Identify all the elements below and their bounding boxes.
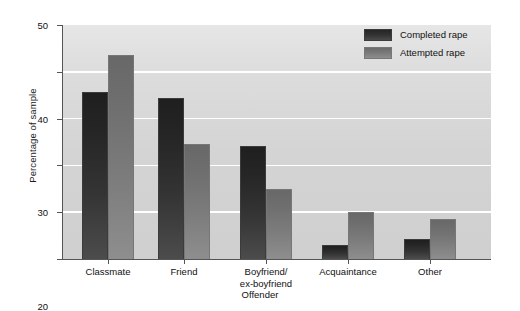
- bar-attempted: [430, 219, 456, 259]
- y-axis-tick: 50: [57, 25, 63, 26]
- x-axis-tick-label-line: Friend: [171, 266, 198, 278]
- x-axis-tick: [266, 259, 267, 264]
- x-axis-tick-label: Friend: [171, 266, 198, 278]
- x-axis-line: [62, 259, 491, 260]
- legend-label: Attempted rape: [400, 47, 465, 58]
- y-axis-tick: 20: [57, 165, 63, 166]
- y-axis-tick-label: 20: [37, 300, 48, 311]
- x-axis-tick-label-line: Boyfriend/: [240, 266, 292, 278]
- bar-completed: [240, 146, 266, 259]
- legend-swatch-completed: [364, 29, 392, 41]
- legend-swatch-attempted: [364, 47, 392, 59]
- bar-attempted: [348, 212, 374, 259]
- x-axis-tick-label: Classmate: [86, 266, 131, 278]
- y-axis-tick-label: 30: [37, 207, 48, 218]
- x-axis-tick-label-line: Other: [418, 266, 442, 278]
- x-axis-tick-label: Boyfriend/ex-boyfriend: [240, 266, 292, 289]
- y-axis-tick: 40: [57, 72, 63, 73]
- bar-attempted: [184, 144, 210, 259]
- bar-attempted: [108, 55, 134, 259]
- bar-completed: [404, 239, 430, 259]
- x-axis-tick: [108, 259, 109, 264]
- x-axis-tick-label: Other: [418, 266, 442, 278]
- x-axis-tick: [430, 259, 431, 264]
- x-axis-tick: [348, 259, 349, 264]
- chart-legend: Completed rapeAttempted rape: [364, 27, 468, 63]
- y-axis-tick: 10: [57, 212, 63, 213]
- y-axis-tick: 30: [57, 119, 63, 120]
- legend-label: Completed rape: [400, 29, 468, 40]
- x-axis-tick-label-line: Classmate: [86, 266, 131, 278]
- bar-chart: Percentage of sample 01020304050 Classma…: [0, 0, 520, 311]
- x-axis-tick-label-line: Acquaintance: [319, 266, 377, 278]
- x-axis-title: Offender: [0, 289, 520, 300]
- x-axis-tick-label: Acquaintance: [319, 266, 377, 278]
- y-axis-tick-label: 50: [37, 20, 48, 31]
- bar-completed: [322, 245, 348, 259]
- x-axis-tick: [184, 259, 185, 264]
- legend-item: Attempted rape: [364, 45, 468, 60]
- x-axis-tick-label-line: ex-boyfriend: [240, 278, 292, 290]
- bar-attempted: [266, 189, 292, 259]
- legend-item: Completed rape: [364, 27, 468, 42]
- bar-completed: [158, 98, 184, 259]
- y-axis-title: Percentage of sample: [27, 46, 38, 226]
- y-axis-tick-label: 40: [37, 113, 48, 124]
- bar-completed: [82, 92, 108, 259]
